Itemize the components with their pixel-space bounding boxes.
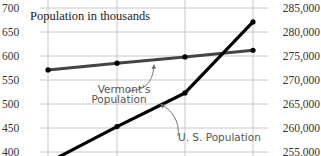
data-point xyxy=(114,61,119,66)
right-tick-label: 265,000 xyxy=(283,98,321,111)
data-point xyxy=(182,54,187,59)
right-tick-label: 285,000 xyxy=(283,2,321,15)
left-tick-label: 650 xyxy=(2,26,20,38)
vermont-annotation-line2: Population xyxy=(91,93,146,105)
population-chart: 700650600550500450400 285,000280,000275,… xyxy=(0,0,321,156)
us-annotation: U. S. Population xyxy=(178,131,261,143)
vermont-arrowhead-icon xyxy=(152,64,157,69)
right-tick-label: 275,000 xyxy=(283,50,321,63)
left-tick-label: 500 xyxy=(2,98,20,110)
left-tick-label: 550 xyxy=(2,74,20,86)
data-point xyxy=(182,90,187,95)
data-point xyxy=(250,48,255,53)
left-tick-label: 700 xyxy=(2,2,20,14)
left-tick-label: 600 xyxy=(2,50,20,62)
data-point xyxy=(114,124,119,129)
us-arrow-icon xyxy=(162,105,178,136)
right-tick-label: 270,000 xyxy=(283,74,321,87)
data-point xyxy=(45,67,50,72)
chart-title: Population in thousands xyxy=(30,9,150,23)
right-tick-label: 260,000 xyxy=(283,122,321,135)
right-axis-ticks: 285,000280,000275,000270,000265,000260,0… xyxy=(283,2,321,156)
right-tick-label: 280,000 xyxy=(283,26,321,39)
left-axis-ticks: 700650600550500450400 xyxy=(2,2,20,156)
left-tick-label: 450 xyxy=(2,122,20,134)
data-point xyxy=(250,19,255,24)
right-tick-label: 255,000 xyxy=(283,146,321,156)
left-tick-label: 400 xyxy=(2,146,20,156)
